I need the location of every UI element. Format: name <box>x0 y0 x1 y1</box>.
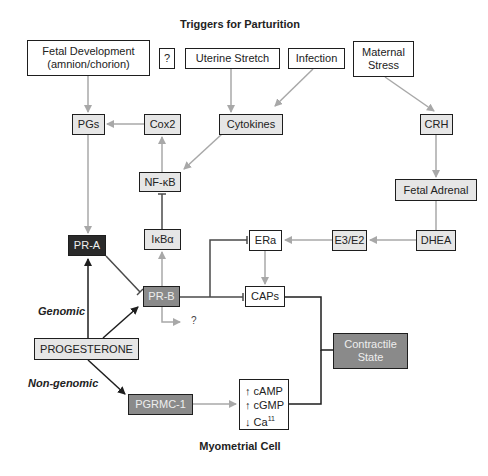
up-arrow-icon: ↑ <box>245 399 251 411</box>
pr-a-box: PR-A <box>68 235 106 256</box>
cgmp-line: ↑ cGMP <box>245 398 288 412</box>
second-messenger-box: ↑ cAMP ↑ cGMP ↓ Ca11 <box>239 379 289 430</box>
unknown-trigger-box: ? <box>159 48 175 69</box>
maternal-stress-label-2: Stress <box>368 59 399 72</box>
fetal-development-sublabel: (amnion/chorion) <box>47 58 130 71</box>
camp-line: ↑ cAMP <box>245 384 288 398</box>
pr-b-box: PR-B <box>143 286 180 307</box>
fetal-development-box: Fetal Development (amnion/chorion) <box>27 40 150 76</box>
pgs-box: PGs <box>72 114 105 135</box>
calcium-line: ↓ Ca11 <box>245 412 288 429</box>
caps-box: CAPs <box>245 286 285 307</box>
non-genomic-label: Non-genomic <box>28 377 98 389</box>
up-arrow-icon: ↑ <box>245 385 251 397</box>
maternal-stress-label-1: Maternal <box>362 46 405 59</box>
contractile-state-label-1: Contractile <box>344 338 397 351</box>
contractile-state-box: Contractile State <box>333 333 408 369</box>
pgrmc1-box: PGRMC-1 <box>128 394 193 415</box>
contractile-state-label-2: State <box>358 351 384 364</box>
maternal-stress-box: Maternal Stress <box>353 41 414 77</box>
dhea-box: DHEA <box>416 230 456 251</box>
uterine-stretch-box: Uterine Stretch <box>185 48 280 69</box>
e3e2-box: E3/E2 <box>332 230 367 251</box>
progesterone-box: PROGESTERONE <box>34 338 139 360</box>
cytokines-box: Cytokines <box>219 114 283 135</box>
fetal-development-label: Fetal Development <box>42 45 134 58</box>
myometrial-cell-label: Myometrial Cell <box>140 440 340 452</box>
down-arrow-icon: ↓ <box>245 416 251 428</box>
genomic-label: Genomic <box>38 305 85 317</box>
crh-box: CRH <box>420 114 453 135</box>
cox2-box: Cox2 <box>144 114 181 135</box>
infection-box: Infection <box>288 48 345 69</box>
ikba-box: IκBα <box>144 229 181 250</box>
pr-b-unknown-target: ? <box>191 315 197 326</box>
diagram-title: Triggers for Parturition <box>140 18 340 30</box>
era-box: ERa <box>249 230 282 251</box>
fetal-adrenal-box: Fetal Adrenal <box>395 179 477 201</box>
nfkb-box: NF-κB <box>139 172 181 192</box>
